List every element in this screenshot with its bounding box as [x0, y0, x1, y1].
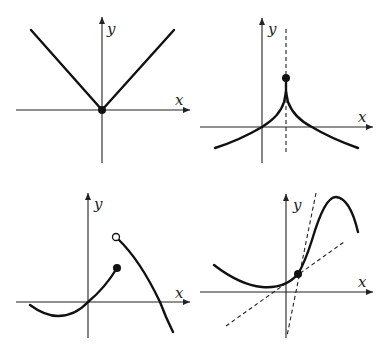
right-branch	[286, 92, 358, 148]
x-label: x	[358, 273, 367, 291]
filled-point	[98, 106, 106, 114]
panel-bottom-left: y x	[16, 193, 190, 338]
filled-point	[282, 74, 290, 82]
x-label: x	[175, 91, 184, 109]
y-label: y	[292, 196, 302, 214]
x-label: x	[358, 108, 367, 126]
panel-top-right: y x	[200, 18, 373, 163]
open-circle	[113, 234, 120, 241]
y-label: y	[267, 20, 277, 38]
right-branch	[118, 239, 173, 332]
left-branch	[30, 268, 117, 316]
filled-point	[113, 264, 121, 272]
panel-top-left: y x	[16, 17, 190, 163]
panel-bottom-right: y x	[200, 193, 373, 338]
y-label: y	[106, 20, 116, 38]
filled-point	[294, 270, 302, 278]
y-label: y	[93, 195, 103, 213]
left-branch	[215, 92, 286, 148]
x-label: x	[175, 284, 184, 302]
figure: y x y x y x y x	[0, 0, 392, 355]
